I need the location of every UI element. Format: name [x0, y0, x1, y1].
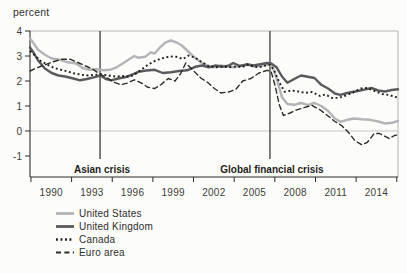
x-tick-label: 1999	[161, 187, 185, 198]
united-states-line-swatch-icon	[56, 209, 74, 218]
x-tick-label: 1990	[40, 187, 64, 198]
y-tick-label: 2	[16, 76, 22, 87]
united-kingdom-line-swatch-icon	[56, 222, 74, 231]
legend-label-canada: Canada	[79, 234, 115, 245]
canada-line-swatch-icon	[56, 235, 74, 244]
chart-legend: United States United Kingdom Canada Euro…	[56, 208, 153, 258]
x-tick-label: 2002	[202, 187, 226, 198]
legend-item-united-kingdom: United Kingdom	[56, 221, 153, 232]
x-tick-label: 2008	[283, 187, 307, 198]
x-tick-label: 2005	[243, 187, 267, 198]
legend-item-united-states: United States	[56, 208, 153, 219]
y-tick-label: -1	[13, 151, 22, 162]
series-line-canada	[30, 51, 398, 98]
x-tick-label: 1996	[121, 187, 145, 198]
y-tick-label: 1	[16, 101, 22, 112]
legend-item-euro-area: Euro area	[56, 247, 153, 258]
annotation-global-financial-crisis: Global financial crisis	[220, 164, 324, 175]
annotation-asian-crisis: Asian crisis	[74, 164, 131, 175]
legend-label-united-states: United States	[79, 208, 142, 219]
legend-label-euro-area: Euro area	[79, 247, 125, 258]
euro-area-line-swatch-icon	[56, 248, 74, 257]
y-tick-label: 4	[16, 26, 22, 37]
x-tick-label: 1993	[80, 187, 104, 198]
y-tick-label: 0	[16, 126, 22, 137]
x-tick-label: 2011	[324, 187, 347, 198]
x-tick-label: 2014	[365, 187, 389, 198]
legend-item-canada: Canada	[56, 234, 153, 245]
legend-label-united-kingdom: United Kingdom	[79, 221, 153, 232]
series-line-united-states	[30, 39, 398, 124]
y-tick-label: 3	[16, 51, 22, 62]
series-line-euro-area	[30, 59, 398, 145]
chart-screenshot: percent 43210-11990199319961999200220052…	[0, 0, 407, 273]
